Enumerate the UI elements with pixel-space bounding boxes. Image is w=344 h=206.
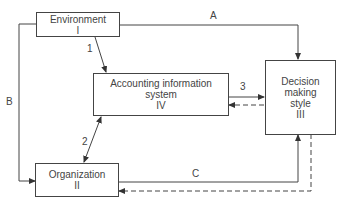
edge-label-3: 3 — [240, 81, 246, 92]
decision-numeral: III — [296, 109, 304, 120]
edge-label-2: 2 — [82, 136, 88, 147]
edge-label-b: B — [6, 96, 13, 107]
decision-title-line3: style — [290, 98, 311, 109]
node-environment: Environment I — [36, 12, 120, 37]
organization-title: Organization — [49, 169, 106, 180]
accounting-numeral: IV — [156, 100, 165, 111]
environment-numeral: I — [77, 25, 80, 36]
edge-a — [120, 25, 298, 59]
decision-title-line1: Decision — [281, 76, 319, 87]
decision-title-line2: making — [284, 87, 316, 98]
accounting-title-line1: Accounting information — [110, 78, 212, 89]
edge-b — [19, 24, 36, 181]
node-decision-making-style: Decision making style III — [265, 60, 336, 135]
node-organization: Organization II — [35, 163, 119, 197]
node-accounting-information-system: Accounting information system IV — [93, 73, 229, 116]
organization-numeral: II — [74, 180, 80, 191]
edge-label-c: C — [192, 168, 199, 179]
edge-1 — [95, 37, 106, 72]
accounting-title-line2: system — [145, 89, 177, 100]
edge-c — [118, 135, 298, 182]
edge-label-1: 1 — [87, 43, 93, 54]
environment-title: Environment — [50, 14, 106, 25]
edge-label-a: A — [210, 10, 217, 21]
